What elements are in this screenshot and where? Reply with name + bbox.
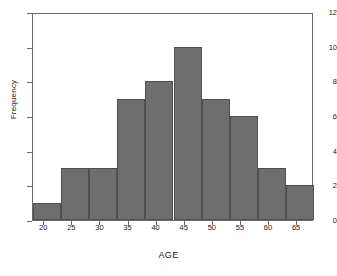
x-tick-label: 50 [199,224,225,232]
y-tick-mark [27,221,32,222]
histogram-bar [145,81,173,220]
x-tick-label: 40 [143,224,169,232]
bars-layer [33,14,312,220]
x-tick-mark [99,221,100,225]
x-tick-label: 45 [171,224,197,232]
y-tick-mark [27,152,32,153]
x-tick-mark [212,221,213,225]
histogram-chart: 024681012 20253035404550556065 Frequency… [0,0,337,276]
x-axis-title: AGE [0,250,337,260]
x-tick-label: 35 [115,224,141,232]
histogram-bar [202,99,230,220]
y-tick-label: 2 [313,182,337,190]
y-tick-label: 6 [313,113,337,121]
plot-area [32,13,313,221]
histogram-bar [61,168,89,220]
x-tick-label: 20 [30,224,56,232]
x-tick-label: 55 [227,224,253,232]
y-tick-mark [27,13,32,14]
y-tick-mark [27,186,32,187]
y-tick-label: 10 [313,44,337,52]
x-tick-label: 25 [58,224,84,232]
x-tick-label: 60 [255,224,281,232]
x-tick-mark [156,221,157,225]
x-tick-mark [240,221,241,225]
x-tick-mark [128,221,129,225]
y-tick-label: 12 [313,9,337,17]
y-tick-label: 0 [313,217,337,225]
histogram-bar [174,47,202,220]
histogram-bar [117,99,145,220]
y-axis-title: Frequency [9,60,18,140]
histogram-bar [89,168,117,220]
y-tick-mark [27,48,32,49]
histogram-bar [258,168,286,220]
x-tick-mark [71,221,72,225]
histogram-bar [286,185,314,220]
y-tick-label: 4 [313,148,337,156]
x-tick-mark [43,221,44,225]
x-tick-mark [184,221,185,225]
x-tick-mark [296,221,297,225]
histogram-bar [33,203,61,220]
y-tick-mark [27,117,32,118]
x-tick-label: 65 [283,224,309,232]
y-tick-label: 8 [313,78,337,86]
x-tick-mark [268,221,269,225]
y-tick-mark [27,82,32,83]
x-tick-label: 30 [86,224,112,232]
histogram-bar [230,116,258,220]
